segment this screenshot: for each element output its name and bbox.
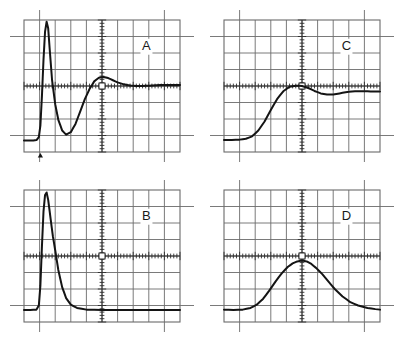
trigger-marker-icon: [38, 153, 43, 158]
graticule-center-axes-d: [224, 190, 380, 322]
panel-label-d: D: [342, 208, 351, 223]
oscilloscope-figure: ACBD: [0, 0, 404, 342]
scope-panel-c: C: [208, 8, 396, 166]
panel-label-b: B: [142, 208, 151, 223]
scope-panel-d: D: [208, 178, 396, 336]
graticule-center-axes-b: [24, 190, 180, 322]
scope-panel-b: B: [8, 178, 196, 336]
panel-label-a: A: [142, 38, 151, 53]
scope-panel-a: A: [8, 8, 196, 166]
panel-label-c: C: [342, 38, 351, 53]
